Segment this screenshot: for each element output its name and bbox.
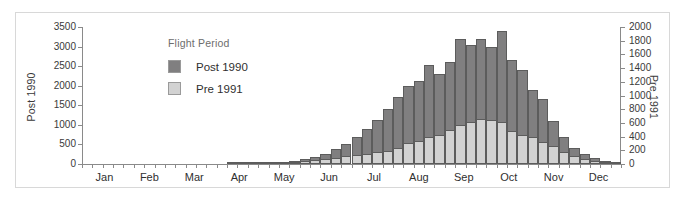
x-axis-tick bbox=[403, 164, 404, 168]
x-axis-tick bbox=[476, 164, 477, 168]
bar-pre-1991 bbox=[269, 162, 279, 164]
y-axis-right-tick-label: 0 bbox=[629, 159, 635, 169]
bar-pre-1991 bbox=[300, 161, 310, 164]
bar-pre-1991 bbox=[538, 142, 548, 164]
bar-pre-1991 bbox=[237, 162, 247, 164]
bar-pre-1991 bbox=[383, 151, 393, 164]
y-axis-left-tick bbox=[78, 27, 82, 28]
x-axis-tick bbox=[217, 164, 218, 168]
y-axis-right-tick-label: 1200 bbox=[629, 77, 651, 87]
x-axis-tick bbox=[123, 164, 124, 168]
x-axis-tick bbox=[310, 164, 311, 168]
y-axis-right-tick-label: 1400 bbox=[629, 63, 651, 73]
x-axis-tick bbox=[82, 164, 83, 168]
legend-item[interactable]: Post 1990 bbox=[168, 60, 248, 73]
x-axis-tick bbox=[134, 164, 135, 168]
x-axis-tick bbox=[590, 164, 591, 168]
x-axis-tick bbox=[289, 164, 290, 168]
bar-pre-1991 bbox=[227, 162, 237, 164]
bar-pre-1991 bbox=[445, 130, 455, 164]
x-axis-month-label: Jan bbox=[96, 171, 114, 183]
y-axis-left-tick bbox=[78, 125, 82, 126]
x-axis-month-label: Aug bbox=[409, 171, 429, 183]
x-axis-tick bbox=[434, 164, 435, 168]
x-axis-tick bbox=[507, 164, 508, 168]
x-axis-tick bbox=[445, 164, 446, 168]
x-axis-tick bbox=[155, 164, 156, 168]
y-axis-left-tick-label: 1500 bbox=[54, 100, 76, 110]
x-axis-tick bbox=[559, 164, 560, 168]
bar-pre-1991 bbox=[434, 135, 444, 164]
x-axis-tick bbox=[466, 164, 467, 168]
y-axis-left-line bbox=[82, 27, 83, 164]
x-axis-tick bbox=[269, 164, 270, 168]
y-axis-left-tick bbox=[78, 47, 82, 48]
bar-pre-1991 bbox=[310, 160, 320, 164]
plot-area: 0500100015002000250030003500 02004006008… bbox=[82, 27, 621, 164]
bar-pre-1991 bbox=[580, 159, 590, 164]
legend-item-label: Pre 1991 bbox=[196, 83, 243, 95]
x-axis-tick bbox=[186, 164, 187, 168]
y-axis-right-tick bbox=[621, 54, 625, 55]
y-axis-right-tick bbox=[621, 109, 625, 110]
y-axis-right-tick bbox=[621, 68, 625, 69]
x-axis-month-label: Feb bbox=[140, 171, 159, 183]
x-axis-month-label: Jul bbox=[367, 171, 381, 183]
x-axis-tick bbox=[611, 164, 612, 168]
y-axis-left-tick-label: 500 bbox=[59, 139, 76, 149]
y-axis-right-tick-label: 2000 bbox=[629, 22, 651, 32]
x-axis-tick bbox=[414, 164, 415, 168]
x-axis-tick bbox=[362, 164, 363, 168]
bar-pre-1991 bbox=[600, 162, 610, 164]
bar-pre-1991 bbox=[352, 155, 362, 164]
bar-pre-1991 bbox=[331, 158, 341, 164]
bar-pre-1991 bbox=[372, 152, 382, 164]
y-axis-left-tick bbox=[78, 105, 82, 106]
legend-item[interactable]: Pre 1991 bbox=[168, 82, 248, 95]
x-axis-month-label: Nov bbox=[544, 171, 564, 183]
legend-title: Flight Period bbox=[168, 37, 248, 49]
x-axis-tick bbox=[206, 164, 207, 168]
bar-pre-1991 bbox=[289, 162, 299, 164]
x-axis-tick bbox=[113, 164, 114, 168]
bar-pre-1991 bbox=[455, 125, 465, 164]
y-axis-right-tick bbox=[621, 41, 625, 42]
x-axis-tick bbox=[92, 164, 93, 168]
bar-pre-1991 bbox=[528, 137, 538, 164]
y-axis-left-tick-label: 2000 bbox=[54, 81, 76, 91]
bar-pre-1991 bbox=[486, 120, 496, 164]
y-axis-right-tick bbox=[621, 82, 625, 83]
bar-pre-1991 bbox=[548, 146, 558, 164]
x-axis-month-label: Sep bbox=[454, 171, 474, 183]
bar-pre-1991 bbox=[279, 162, 289, 164]
y-axis-right-tick bbox=[621, 137, 625, 138]
y-axis-left-tick bbox=[78, 66, 82, 67]
y-axis-right-tick-label: 1800 bbox=[629, 36, 651, 46]
x-axis-tick bbox=[258, 164, 259, 168]
x-axis-tick bbox=[600, 164, 601, 168]
bar-pre-1991 bbox=[497, 122, 507, 164]
legend-swatch-icon bbox=[168, 82, 181, 95]
bar-pre-1991 bbox=[341, 156, 351, 164]
x-axis-month-label: Oct bbox=[500, 171, 517, 183]
x-axis-tick bbox=[227, 164, 228, 168]
y-axis-right-tick bbox=[621, 150, 625, 151]
y-axis-left-tick-label: 1000 bbox=[54, 120, 76, 130]
y-axis-left-tick-label: 3000 bbox=[54, 42, 76, 52]
x-axis-tick bbox=[341, 164, 342, 168]
x-axis-tick bbox=[279, 164, 280, 168]
bar-pre-1991 bbox=[403, 143, 413, 164]
x-axis-month-label: Jun bbox=[320, 171, 338, 183]
x-axis-tick bbox=[320, 164, 321, 168]
x-axis-month-label: May bbox=[274, 171, 295, 183]
x-axis-tick bbox=[569, 164, 570, 168]
x-axis-tick bbox=[352, 164, 353, 168]
x-axis-month-label: Apr bbox=[231, 171, 248, 183]
bar-pre-1991 bbox=[476, 119, 486, 164]
x-axis-tick bbox=[103, 164, 104, 168]
bar-pre-1991 bbox=[362, 154, 372, 164]
y-axis-right-tick-label: 1600 bbox=[629, 49, 651, 59]
x-axis-tick bbox=[497, 164, 498, 168]
y-axis-right-tick bbox=[621, 96, 625, 97]
bar-pre-1991 bbox=[258, 162, 268, 164]
